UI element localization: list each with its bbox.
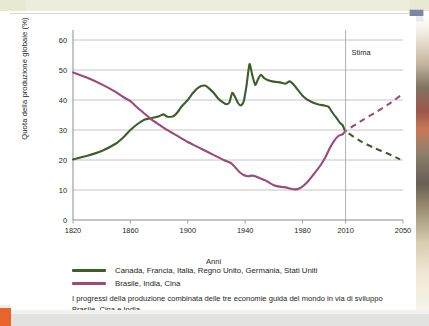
- x-tick-label-1940: 1940: [237, 226, 253, 235]
- figure-card: Quota della produzione globale (%) 01020…: [11, 16, 416, 310]
- legend-label-green: Canada, Francia, Italia, Regno Unito, Ge…: [115, 266, 317, 275]
- y-tick-label-60: 60: [59, 36, 67, 45]
- chart-series: [73, 64, 400, 189]
- y-tick-label-0: 0: [63, 216, 67, 225]
- chart-tick-labels: 0102030405060182018601900194019802010205…: [59, 36, 411, 235]
- x-tick-label-2010: 2010: [337, 226, 353, 235]
- x-tick-label-1900: 1900: [180, 226, 196, 235]
- page-root: Quota della produzione globale (%) 01020…: [0, 0, 429, 326]
- line-chart-svg: 0102030405060182018601900194019802010205…: [11, 16, 416, 252]
- y-tick-label-40: 40: [59, 96, 67, 105]
- y-tick-label-10: 10: [59, 186, 67, 195]
- series-line-green: [73, 64, 343, 159]
- x-tick-label-1860: 1860: [122, 226, 138, 235]
- series-line-purple: [73, 72, 343, 189]
- page-orange-tab: [0, 305, 11, 326]
- y-tick-label-30: 30: [59, 126, 67, 135]
- page-bottom-edge: [11, 314, 429, 326]
- page-top-rule: [10, 13, 414, 14]
- x-tick-label-1980: 1980: [294, 226, 310, 235]
- legend-swatch-green-icon: [72, 269, 106, 272]
- page-top-band-inner: [26, 0, 410, 11]
- adjacent-page-sliver: [416, 16, 429, 314]
- legend-item-purple: Brasile, India, Cina: [72, 277, 412, 290]
- y-tick-label-50: 50: [59, 66, 67, 75]
- legend-label-purple: Brasile, India, Cina: [115, 279, 180, 288]
- legend-swatch-purple-icon: [72, 282, 106, 285]
- legend-item-green: Canada, Francia, Italia, Regno Unito, Ge…: [72, 264, 412, 277]
- y-tick-label-20: 20: [59, 156, 67, 165]
- chart-gridlines: [73, 40, 403, 190]
- chart-annotation-layer: Stima: [346, 30, 372, 220]
- chart-legend: Canada, Francia, Italia, Regno Unito, Ge…: [72, 264, 412, 290]
- series-projection-purple: [343, 96, 400, 134]
- plot-area: Quota della produzione globale (%) 01020…: [11, 16, 416, 246]
- estimate-annotation-label: Stima: [352, 48, 372, 57]
- x-tick-label-1820: 1820: [65, 226, 81, 235]
- x-tick-label-2050: 2050: [395, 226, 411, 235]
